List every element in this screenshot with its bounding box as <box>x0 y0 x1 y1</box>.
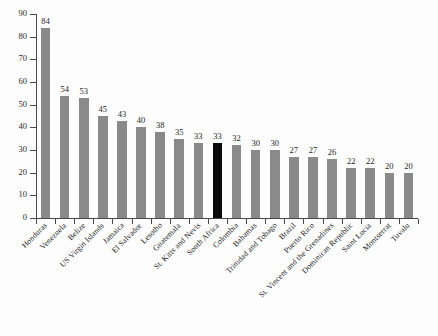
bar-value-label: 27 <box>309 145 318 155</box>
y-axis-tick-label: 80 <box>19 31 31 42</box>
bar: 38 <box>155 132 165 218</box>
x-axis-tick-mark <box>418 219 419 224</box>
bar: 45 <box>98 116 108 218</box>
bar-value-label: 27 <box>290 145 299 155</box>
bar-value-label: 45 <box>99 104 108 114</box>
x-axis-tick-mark <box>284 219 285 224</box>
bar-value-label: 20 <box>404 161 413 171</box>
bar-value-label: 30 <box>270 138 279 148</box>
bar: 53 <box>79 98 89 218</box>
bar: 30 <box>270 150 280 218</box>
bar-value-label: 30 <box>251 138 260 148</box>
bar-value-label: 43 <box>118 109 127 119</box>
x-axis-tick-mark <box>361 219 362 224</box>
y-axis-tick-label: 20 <box>19 167 31 178</box>
bar: 40 <box>136 127 146 218</box>
bar: 33 <box>213 143 223 218</box>
bar-value-label: 40 <box>137 115 146 125</box>
bar: 43 <box>117 121 127 218</box>
bar: 33 <box>194 143 204 218</box>
x-axis-tick-mark <box>399 219 400 224</box>
x-axis-tick-mark <box>380 219 381 224</box>
bar-value-label: 84 <box>41 16 50 26</box>
x-axis-tick-mark <box>55 219 56 224</box>
bar: 84 <box>41 28 51 218</box>
x-axis-tick-mark <box>208 219 209 224</box>
bar: 54 <box>60 96 70 218</box>
x-axis-tick-mark <box>74 219 75 224</box>
bar-value-label: 22 <box>347 156 356 166</box>
x-axis-tick-mark <box>112 219 113 224</box>
bar-value-label: 26 <box>328 147 337 157</box>
bar: 35 <box>174 139 184 218</box>
bar: 22 <box>365 168 375 218</box>
y-axis-tick-label: 90 <box>19 8 31 19</box>
x-axis-tick-mark <box>246 219 247 224</box>
x-axis-tick-mark <box>323 219 324 224</box>
x-axis-tick-mark <box>36 219 37 224</box>
plot-area: 8454534543403835333332303027272622222020 <box>36 14 418 218</box>
x-axis-tick-mark <box>342 219 343 224</box>
bar-value-label: 54 <box>60 84 69 94</box>
x-axis-tick-mark <box>151 219 152 224</box>
bar-value-label: 32 <box>232 133 241 143</box>
bar-value-label: 35 <box>175 127 184 137</box>
bar-value-label: 33 <box>194 131 203 141</box>
bar: 27 <box>289 157 299 218</box>
bar-value-label: 33 <box>213 131 222 141</box>
bar-value-label: 53 <box>79 86 88 96</box>
x-axis-tick-mark <box>265 219 266 224</box>
y-axis-tick-label: 60 <box>19 76 31 87</box>
bar: 27 <box>308 157 318 218</box>
y-axis-tick-label: 0 <box>23 212 30 223</box>
bar-value-label: 38 <box>156 120 165 130</box>
x-axis-category-label: Tuvalu <box>389 221 412 244</box>
y-axis-tick-label: 40 <box>19 121 31 132</box>
y-axis-tick-label: 70 <box>19 53 31 64</box>
bar: 32 <box>232 145 242 218</box>
bar: 20 <box>385 173 395 218</box>
x-axis-tick-mark <box>170 219 171 224</box>
bar-value-label: 22 <box>366 156 375 166</box>
x-axis-tick-mark <box>93 219 94 224</box>
bar-chart: 0102030405060708090 84545345434038353333… <box>0 0 438 336</box>
bar-value-label: 20 <box>385 161 394 171</box>
x-axis-tick-mark <box>132 219 133 224</box>
y-axis-tick-label: 50 <box>19 99 31 110</box>
bar: 30 <box>251 150 261 218</box>
x-axis-tick-mark <box>189 219 190 224</box>
bar: 20 <box>404 173 414 218</box>
y-axis-tick-label: 30 <box>19 144 31 155</box>
x-axis-tick-mark <box>227 219 228 224</box>
y-axis-tick-label: 10 <box>19 189 31 200</box>
bar: 26 <box>327 159 337 218</box>
bar: 22 <box>346 168 356 218</box>
x-axis-tick-mark <box>303 219 304 224</box>
